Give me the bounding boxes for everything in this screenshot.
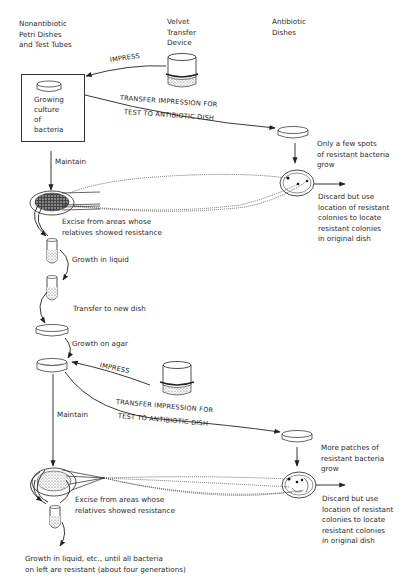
agar-dish-icon — [37, 359, 67, 373]
excise-label-1: Excise from areas whose relatives showed… — [62, 217, 162, 238]
new-dish-icon — [36, 325, 68, 337]
velvet-device-icon-2 — [160, 362, 194, 396]
test-tube-icon-2 — [47, 276, 57, 301]
header-antibiotic: Antibiotic Dishes — [272, 17, 306, 38]
transfer-new-dish-label: Transfer to new dish — [73, 304, 146, 315]
header-nonantibiotic: Nonantibiotic Petri Dishes and Test Tube… — [19, 19, 72, 51]
antibiotic-dish-icon-1 — [278, 127, 308, 139]
source-dish-icon-1 — [30, 191, 74, 215]
test-tube-icon-1 — [47, 239, 57, 264]
growth-agar-label: Growth on agar — [72, 339, 128, 350]
discard-note-1: Discard but use location of resistant co… — [318, 192, 389, 245]
growth-liquid-label: Growth in liquid — [72, 255, 129, 266]
resistant-dish-icon-2 — [282, 472, 316, 498]
resistant-dish-icon-1 — [280, 170, 314, 196]
final-note: Growth in liquid, etc., until all bacter… — [25, 554, 186, 575]
result-note-1: Only a few spots of resistant bacteria g… — [317, 139, 389, 171]
header-velvet-device: Velvet Transfer Device — [167, 17, 196, 49]
excise-label-2: Excise from areas whose relatives showed… — [75, 495, 175, 516]
antibiotic-dish-icon-2 — [282, 431, 312, 443]
velvet-device-icon-1 — [166, 54, 198, 88]
discard-note-2: Discard but use location of resistant co… — [322, 494, 393, 547]
maintain-label-2: Maintain — [57, 410, 88, 421]
test-tube-icon-3 — [50, 506, 60, 529]
maintain-label-1: Maintain — [55, 157, 86, 168]
culture-label: Growing culture of bacteria — [34, 95, 64, 135]
result-note-2: More patches of resistant bacteria grow — [321, 443, 384, 475]
